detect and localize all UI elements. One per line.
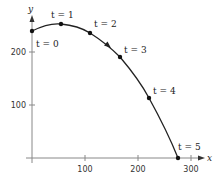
x-tick-label-100: 100 xyxy=(77,165,92,174)
point-t3 xyxy=(118,55,122,59)
y-tick-label-200: 200 xyxy=(11,48,26,57)
x-tick-label-200: 200 xyxy=(130,165,145,174)
point-t2 xyxy=(88,31,92,35)
point-t5 xyxy=(176,156,180,160)
x-tick-label-300: 300 xyxy=(183,165,198,174)
y-axis-label: y xyxy=(27,4,34,14)
y-tick-label-100: 100 xyxy=(11,101,26,110)
point-t1 xyxy=(59,22,63,26)
label-t0: t = 0 xyxy=(36,39,59,49)
label-t5: t = 5 xyxy=(178,142,201,152)
x-axis-label: x xyxy=(207,153,212,163)
label-t3: t = 3 xyxy=(124,45,147,55)
label-t4: t = 4 xyxy=(153,86,176,96)
direction-arrow-icon xyxy=(104,42,111,49)
y-axis-arrow-icon xyxy=(30,15,35,22)
point-t4 xyxy=(147,96,151,100)
chart: 100 200 300 100 200 y x t = 0 t = 1 t = … xyxy=(0,0,215,184)
point-t0 xyxy=(30,29,34,33)
x-axis-arrow-icon xyxy=(198,156,205,161)
point-labels: t = 0 t = 1 t = 2 t = 3 t = 4 t = 5 xyxy=(36,10,201,152)
label-t1: t = 1 xyxy=(51,10,74,20)
label-t2: t = 2 xyxy=(94,19,117,29)
